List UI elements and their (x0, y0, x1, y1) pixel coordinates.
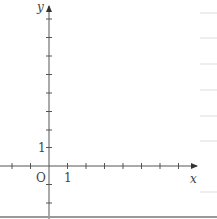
origin-label: O (36, 171, 46, 185)
margin-lines (200, 13, 217, 192)
x-axis-label: x (190, 172, 197, 186)
x-unit-label: 1 (64, 171, 72, 185)
y-axis-label: y (36, 0, 44, 14)
y-unit-label: 1 (38, 141, 46, 155)
coordinate-plane: y x O 1 1 (0, 0, 217, 219)
